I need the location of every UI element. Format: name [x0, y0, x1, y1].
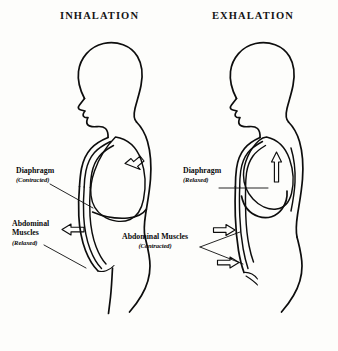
label-diaphragm-inhalation: Diaphragm (Contracted) — [16, 166, 54, 185]
hip-thigh-outline-right — [282, 237, 303, 312]
lung-cavity-left — [91, 137, 145, 221]
abdomen-front-outline-left — [79, 187, 98, 272]
head-and-back-outline-right — [230, 43, 294, 122]
back-outline-left — [137, 122, 151, 237]
label-abdominal-exhalation: Abdominal Muscles (Contracted) — [122, 232, 188, 251]
leader-line-abdominal-upper-right — [200, 232, 240, 247]
label-abdominal-exhalation-line1: Abdominal Muscles — [122, 232, 188, 241]
label-diaphragm-inhalation-name: Diaphragm — [16, 166, 54, 175]
rib-line-outer-right — [240, 142, 263, 188]
label-diaphragm-exhalation-name: Diaphragm — [183, 166, 221, 175]
diaphragm-dome-right — [242, 191, 288, 218]
front-thigh-outline-left — [109, 268, 113, 314]
arrow-diaphragm-down-left — [125, 156, 144, 169]
label-diaphragm-exhalation: Diaphragm (Relaxed) — [183, 166, 221, 185]
label-abdominal-inhalation-line2: Muscles — [12, 228, 39, 237]
face-profile-left — [78, 99, 108, 138]
lung-cavity-right — [244, 137, 294, 209]
arrow-abdominal-in-upper-right — [214, 225, 236, 236]
rib-line-inner-left — [90, 146, 113, 188]
figure-inhalation — [44, 43, 151, 314]
leader-line-abdominal-left — [44, 245, 86, 268]
head-and-back-outline-left — [78, 43, 142, 122]
leader-line-diaphragm-left — [50, 184, 93, 208]
label-abdominal-exhalation-state: (Contracted) — [122, 241, 188, 250]
arrow-diaphragm-up-right — [272, 152, 282, 182]
label-abdominal-inhalation: Abdominal Muscles (Relaxed) — [12, 219, 49, 247]
label-diaphragm-inhalation-state: (Contracted) — [16, 175, 54, 184]
label-diaphragm-exhalation-state: (Relaxed) — [183, 175, 221, 184]
face-profile-right — [230, 99, 260, 138]
label-abdominal-inhalation-state: (Relaxed) — [12, 238, 49, 247]
abdominal-band-outer-left — [83, 187, 101, 269]
diagram-canvas: INHALATION EXHALATION — [0, 0, 338, 351]
label-abdominal-inhalation-line1: Abdominal — [12, 219, 49, 228]
